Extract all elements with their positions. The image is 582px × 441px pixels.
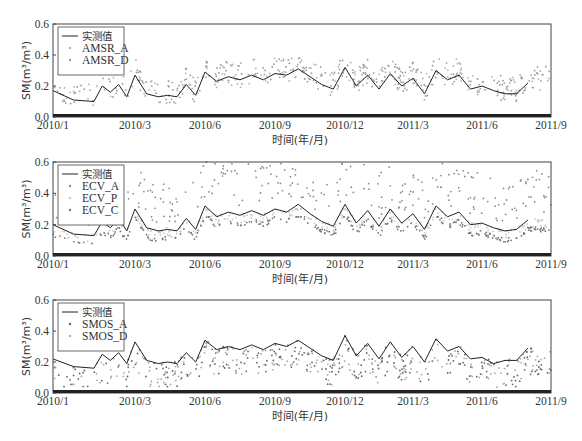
chart-panel-1: 0.00.20.40.62010/12010/32010/62010/92010…: [20, 18, 567, 147]
daily-tick-band: [53, 390, 551, 393]
x-tick-label: 2010/9: [259, 258, 291, 270]
y-axis-title: SM(m³/m³): [20, 317, 33, 376]
daily-tick-band: [53, 253, 551, 256]
legend-label: 实测值: [82, 168, 113, 180]
legend-dot-swatch: [69, 59, 71, 61]
scatter-ecv-p: [54, 208, 547, 242]
y-axis-title: SM(m³/m³): [20, 179, 33, 238]
legend-label: AMSR_D: [82, 54, 129, 66]
x-axis-title: 时间(年/月): [272, 409, 328, 423]
x-tick-label: 2011/9: [535, 258, 567, 270]
x-tick-label: 2010/12: [326, 395, 364, 407]
legend-dot-swatch: [69, 323, 71, 325]
y-tick-label: 0.2: [35, 219, 50, 231]
x-tick-label: 2011/6: [466, 258, 498, 270]
chart-panel-3: 0.00.20.40.62010/12010/32010/62010/92010…: [20, 294, 567, 423]
x-tick-label: 2010/3: [119, 395, 151, 407]
legend-dot-swatch: [69, 185, 71, 187]
x-tick-label: 2011/9: [535, 395, 567, 407]
legend-label: ECV_A: [82, 180, 120, 192]
y-tick-label: 0.4: [35, 49, 50, 61]
legend-dot-swatch: [69, 335, 71, 337]
y-axis-title: SM(m³/m³): [20, 41, 33, 100]
x-tick-label: 2010/6: [189, 119, 221, 131]
legend-label: ECV_C: [82, 204, 119, 216]
legend: 实测值ECV_AECV_PECV_C: [58, 165, 124, 225]
y-tick-label: 0.4: [35, 187, 50, 199]
y-tick-label: 0.6: [35, 18, 50, 30]
legend-label: SMOS_D: [82, 330, 127, 342]
legend-dot-swatch: [69, 47, 71, 49]
x-tick-label: 2010/6: [189, 258, 221, 270]
x-tick-label: 2010/1: [37, 119, 69, 131]
y-tick-label: 0.2: [35, 356, 50, 368]
figure: 0.00.20.40.62010/12010/32010/62010/92010…: [0, 0, 582, 441]
x-tick-label: 2011/3: [397, 258, 429, 270]
legend: 实测值SMOS_ASMOS_D: [58, 303, 128, 351]
x-axis-title: 时间(年/月): [272, 133, 328, 147]
x-tick-label: 2010/12: [326, 119, 364, 131]
plot-frame: [53, 24, 551, 117]
x-tick-label: 2010/9: [259, 119, 291, 131]
x-axis-title: 时间(年/月): [272, 272, 328, 286]
x-tick-label: 2011/3: [397, 395, 429, 407]
x-tick-label: 2011/6: [466, 119, 498, 131]
y-tick-label: 0.6: [35, 156, 50, 168]
plot-frame: [53, 300, 551, 393]
x-tick-label: 2010/1: [37, 258, 69, 270]
legend-label: 实测值: [82, 30, 113, 42]
scatter-ecv-a: [55, 161, 552, 226]
x-tick-label: 2010/3: [119, 119, 151, 131]
y-tick-label: 0.2: [35, 80, 50, 92]
legend-dot-swatch: [69, 209, 71, 211]
x-tick-label: 2010/1: [37, 395, 69, 407]
x-tick-label: 2010/9: [259, 395, 291, 407]
plot-frame: [53, 162, 551, 256]
legend: 实测值AMSR_AAMSR_D: [58, 27, 129, 75]
x-tick-label: 2010/12: [326, 258, 364, 270]
y-tick-label: 0.6: [35, 294, 50, 306]
daily-tick-band: [53, 114, 551, 117]
x-tick-label: 2010/3: [119, 258, 151, 270]
legend-label: ECV_P: [82, 192, 117, 204]
x-tick-label: 2011/3: [397, 119, 429, 131]
scatter-amsr-a: [57, 57, 550, 106]
legend-label: SMOS_A: [82, 318, 128, 330]
legend-label: AMSR_A: [82, 42, 129, 54]
y-tick-label: 0.4: [35, 325, 50, 337]
chart-panel-2: 0.00.20.40.62010/12010/32010/62010/92010…: [20, 156, 567, 286]
x-tick-label: 2011/6: [466, 395, 498, 407]
x-tick-label: 2010/6: [189, 395, 221, 407]
legend-dot-swatch: [69, 197, 71, 199]
legend-label: 实测值: [82, 306, 113, 318]
x-tick-label: 2011/9: [535, 119, 567, 131]
